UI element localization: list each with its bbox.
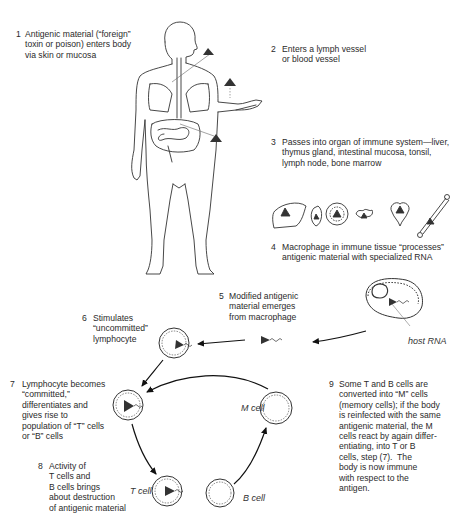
arrow-m-cell-to-committed [147, 376, 268, 392]
arrow-uncommitted-to-committed [142, 360, 163, 386]
step-line: population of “T” cells [22, 421, 105, 431]
step-line: differentiates and [22, 400, 105, 410]
step-number: 7 [10, 379, 15, 389]
organ-icons-row [273, 195, 450, 238]
step-number: 3 [271, 137, 276, 147]
step-line: “uncommitted” [93, 323, 148, 333]
step-number: 4 [271, 242, 276, 252]
step-line: with respect to the [339, 473, 441, 483]
step-line: entiating, into T or B [339, 441, 441, 451]
step-number: 9 [329, 379, 334, 389]
step-line: via skin or mucosa [25, 50, 131, 60]
step-line: cells, step (7). The [339, 452, 441, 462]
step-line: from macrophage [229, 312, 298, 322]
uncommitted-lymphocyte-icon [159, 328, 192, 358]
step-line: is reinfected with the same [339, 410, 441, 420]
step-line: Activity of [49, 461, 126, 471]
step-line: T cells and [49, 471, 126, 481]
arrow-b-cell-to-m-cell [234, 428, 266, 484]
human-body-icon [132, 22, 262, 274]
step-line: Macrophage in immune tissue “processes” [282, 242, 444, 252]
step-line: about destruction [49, 492, 126, 502]
step-line: of antigenic material [49, 503, 126, 513]
step-line: material emerges [229, 301, 298, 311]
step-line: converted into “M” cells [339, 389, 441, 399]
step-line: Antigenic material (“foreign” [25, 29, 131, 39]
committed-lymphocyte-icon [113, 390, 143, 420]
step-line: “committed,” [22, 389, 105, 399]
step-line: lymphocyte [93, 334, 148, 344]
step-line: thymus gland, intestinal mucosa, tonsil, [282, 147, 449, 157]
step-line: lymph node, bone marrow [282, 158, 449, 168]
m-cell-label: M cell [241, 403, 265, 413]
step-line: toxin or poison) enters body [25, 39, 131, 49]
antigen-triangle-icon [224, 78, 236, 86]
step-line: Lymphocyte becomes [22, 379, 105, 389]
step-number: 8 [38, 461, 43, 471]
t-cell-label: T cell [130, 486, 152, 496]
step-line: cells react by again differ- [339, 431, 441, 441]
step-number: 1 [16, 29, 21, 39]
liver-icon [273, 203, 306, 228]
step-line: or blood vessel [282, 54, 366, 64]
step-line: (memory cells); if the body [339, 400, 441, 410]
bone-marrow-icon [418, 195, 450, 238]
thymus-icon [311, 206, 321, 226]
step-line: B cells brings [49, 482, 126, 492]
step-number: 2 [271, 44, 276, 54]
step-line: antigen. [339, 483, 441, 493]
b-cell-icon [206, 479, 234, 507]
modified-antigen-icon [261, 336, 282, 344]
step-line: Stimulates [93, 313, 148, 323]
step-line: Modified antigenic [229, 291, 298, 301]
step-number: 5 [219, 291, 224, 301]
immune-response-diagram: 1 Antigenic material (“foreign” toxin or… [0, 0, 461, 517]
step-line: gives rise to [22, 410, 105, 420]
step-line: or “B” cells [22, 431, 105, 441]
lymph-node-icon [391, 203, 409, 226]
arrow-macrophage-to-antigen [313, 331, 366, 342]
step-line: Some T and B cells are [339, 379, 441, 389]
step-number: 6 [82, 313, 87, 323]
arrow-committed-to-t-cell [132, 424, 156, 474]
intestinal-mucosa-icon [326, 203, 348, 225]
step-line: Enters a lymph vessel [282, 44, 366, 54]
t-cell-icon [152, 476, 183, 506]
step-line: antigenic material with specialized RNA [282, 252, 444, 262]
macrophage-icon [366, 279, 422, 326]
antigen-triangle-icon [203, 48, 214, 55]
arrow-antigen-to-lymphocyte [198, 340, 245, 344]
step-line: Passes into organ of immune system—liver… [282, 137, 449, 147]
b-cell-label: B cell [243, 493, 265, 503]
step-line: body is now immune [339, 462, 441, 472]
step-line: antigenic material, the M [339, 421, 441, 431]
host-rna-label: host RNA [408, 336, 447, 346]
tonsil-icon [356, 209, 373, 218]
